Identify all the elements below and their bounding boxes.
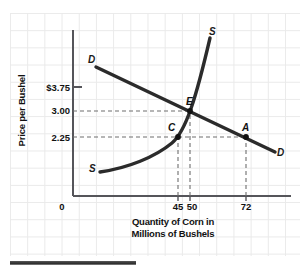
point-label-a: A (242, 122, 249, 133)
supply-curve (100, 38, 210, 172)
x-axis-title-line2: Millions of Bushels (78, 228, 268, 240)
demand-curve (96, 67, 275, 152)
x-axis-title-line1: Quantity of Corn in (78, 216, 268, 228)
y-tick-label-225: 2.25 (18, 132, 70, 143)
y-tick-label-375: $3.75 (18, 82, 70, 93)
point-marker-e (187, 108, 193, 114)
demand-curve-label-left: D (88, 54, 95, 65)
x-tick-label-72: 72 (238, 201, 254, 212)
x-axis-title: Quantity of Corn in Millions of Bushels (78, 216, 268, 240)
point-marker-c (175, 134, 181, 140)
point-marker-a (243, 134, 249, 140)
y-tick-label-300: 3.00 (18, 105, 70, 116)
point-label-c: C (168, 122, 175, 133)
x-tick-label-0: 0 (54, 201, 70, 212)
bottom-edge-artifact (10, 261, 136, 265)
point-label-e: E (186, 96, 193, 107)
x-tick-label-50: 50 (184, 201, 200, 212)
supply-curve-label-top: S (209, 26, 216, 37)
demand-curve-label-right: D (277, 147, 284, 158)
supply-curve-label-bottom: S (89, 163, 96, 174)
chart-figure: Price per Bushel Quantity of Corn in Mil… (0, 0, 308, 268)
